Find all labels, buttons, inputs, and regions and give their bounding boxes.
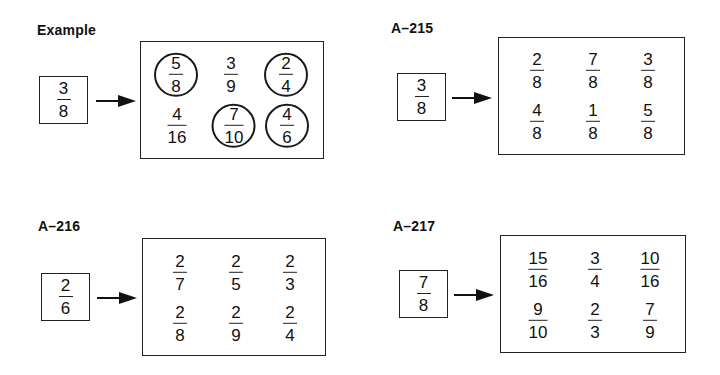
option-fraction: 416: [168, 106, 187, 146]
fraction-bar: [588, 320, 602, 321]
target-fraction-box: 78: [399, 270, 448, 318]
numerator: 3: [417, 77, 426, 94]
denominator: 9: [231, 327, 240, 344]
denominator: 6: [61, 300, 70, 317]
numerator: 2: [285, 304, 294, 321]
fraction-bar: [530, 70, 544, 71]
denominator: 9: [226, 78, 235, 95]
numerator: 2: [285, 253, 294, 270]
denominator: 4: [590, 273, 599, 290]
denominator: 16: [529, 273, 548, 290]
fraction-bar: [586, 121, 600, 122]
target-fraction: 38: [57, 80, 71, 120]
target-fraction: 78: [417, 274, 431, 314]
fraction-bar: [224, 74, 238, 75]
option-fraction-circled: 46: [280, 106, 294, 146]
arrow-right-icon: [96, 95, 136, 107]
numerator: 2: [281, 55, 290, 72]
option-fraction: 18: [586, 102, 600, 142]
denominator: 8: [532, 74, 541, 91]
target-fraction: 26: [59, 277, 73, 317]
option-fraction: 23: [283, 253, 297, 293]
denominator: 16: [168, 129, 187, 146]
option-fraction: 39: [224, 55, 238, 95]
option-fraction-circled: 58: [169, 55, 183, 95]
fraction-bar: [279, 74, 293, 75]
numerator: 4: [172, 106, 181, 123]
option-fraction-circled: 24: [279, 55, 293, 95]
numerator: 5: [171, 55, 180, 72]
option-fraction: 58: [641, 102, 655, 142]
option-fraction: 78: [586, 51, 600, 91]
option-fraction: 23: [588, 301, 602, 341]
numerator: 3: [226, 55, 235, 72]
denominator: 9: [645, 324, 654, 341]
target-fraction: 38: [415, 77, 429, 117]
denominator: 8: [419, 297, 428, 314]
denominator: 3: [590, 324, 599, 341]
fraction-bar: [641, 121, 655, 122]
numerator: 2: [61, 277, 70, 294]
numerator: 7: [229, 106, 238, 123]
fraction-bar: [229, 272, 243, 273]
numerator: 2: [175, 304, 184, 321]
fraction-bar: [173, 272, 187, 273]
denominator: 8: [532, 125, 541, 142]
options-box: 58 39 24 416 710 46: [140, 41, 324, 159]
option-fraction: 79: [643, 301, 657, 341]
numerator: 2: [590, 301, 599, 318]
option-fraction: 34: [588, 250, 602, 290]
denominator: 8: [588, 125, 597, 142]
denominator: 8: [171, 78, 180, 95]
denominator: 8: [417, 100, 426, 117]
option-fraction: 38: [641, 51, 655, 91]
numerator: 7: [419, 274, 428, 291]
fraction-bar: [588, 269, 602, 270]
denominator: 10: [225, 129, 244, 146]
numerator: 2: [175, 253, 184, 270]
fraction-bar: [229, 323, 243, 324]
panel-label: Example: [37, 22, 96, 38]
option-fraction: 910: [529, 301, 548, 341]
options-box: 28 78 38 48 18 58: [498, 37, 685, 155]
option-fraction: 29: [229, 304, 243, 344]
denominator: 4: [281, 78, 290, 95]
arrow-right-icon: [97, 292, 137, 304]
numerator: 3: [590, 250, 599, 267]
numerator: 4: [532, 102, 541, 119]
fraction-bar: [280, 125, 294, 126]
panel-label: A–217: [393, 218, 435, 234]
numerator: 7: [645, 301, 654, 318]
panel-label: A–215: [391, 20, 433, 36]
denominator: 3: [285, 276, 294, 293]
numerator: 3: [643, 51, 652, 68]
option-fraction: 28: [530, 51, 544, 91]
options-box: 27 25 23 28 29 24: [142, 238, 326, 356]
fraction-bar: [168, 125, 187, 126]
fraction-bar: [283, 323, 297, 324]
fraction-bar: [59, 296, 73, 297]
denominator: 8: [588, 74, 597, 91]
numerator: 2: [532, 51, 541, 68]
numerator: 5: [643, 102, 652, 119]
panel-label: A–216: [38, 218, 80, 234]
option-fraction: 24: [283, 304, 297, 344]
denominator: 8: [643, 125, 652, 142]
option-fraction: 1516: [529, 250, 548, 290]
denominator: 8: [59, 103, 68, 120]
fraction-bar: [173, 323, 187, 324]
option-fraction-circled: 710: [225, 106, 244, 146]
fraction-bar: [283, 272, 297, 273]
numerator: 1: [588, 102, 597, 119]
fraction-bar: [643, 320, 657, 321]
target-fraction-box: 26: [41, 273, 90, 321]
denominator: 8: [643, 74, 652, 91]
fraction-bar: [417, 293, 431, 294]
target-fraction-box: 38: [39, 76, 88, 124]
option-fraction: 27: [173, 253, 187, 293]
option-fraction: 1016: [641, 250, 660, 290]
numerator: 2: [231, 253, 240, 270]
denominator: 16: [641, 273, 660, 290]
option-fraction: 25: [229, 253, 243, 293]
denominator: 5: [231, 276, 240, 293]
